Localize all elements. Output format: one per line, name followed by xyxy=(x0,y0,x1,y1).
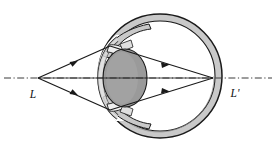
eye-optics-figure: L L' xyxy=(0,0,276,146)
label-object-point: L xyxy=(29,88,36,100)
arrowhead-lower-incident xyxy=(70,89,79,95)
label-image-point: L' xyxy=(230,87,240,99)
arrowhead-upper-incident xyxy=(70,61,79,67)
eye-diagram-canvas: L L' xyxy=(0,0,276,146)
